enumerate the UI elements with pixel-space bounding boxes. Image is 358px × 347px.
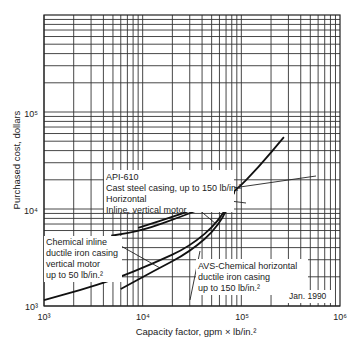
label-avs-1: AVS-Chemical horizontal <box>198 261 297 271</box>
x-tick-1e3: 10³ <box>37 312 50 322</box>
label-avs-2: ductile iron casing <box>198 272 270 282</box>
label-inline-vertical: Inline, vertical motor <box>106 205 187 215</box>
label-avs-3: up to 150 lb/in.² <box>198 283 260 293</box>
label-chem-inline-3: vertical motor <box>46 259 100 269</box>
y-tick-1e3: 10³ <box>25 302 38 312</box>
x-tick-1e5: 10⁵ <box>235 312 249 322</box>
y-tick-1e4: 10⁴ <box>24 206 38 216</box>
label-date: Jan. 1990 <box>289 291 327 301</box>
label-horizontal: Horizontal <box>106 194 147 204</box>
y-axis-label: Purchased cost, dollars <box>11 110 22 209</box>
x-tick-1e6: 10⁶ <box>333 312 347 322</box>
label-cast-steel: Cast steel casing, up to 150 lb/in.² <box>106 183 242 193</box>
label-chem-inline-2: ductile iron casing <box>46 248 118 258</box>
y-tick-1e5: 10⁵ <box>24 109 38 119</box>
label-chem-inline-4: up to 50 lb/in.² <box>46 270 103 280</box>
x-tick-1e4: 10⁴ <box>136 312 150 322</box>
cost-chart: 10⁵ 10⁴ 10³ 10³ 10⁴ 10⁵ 10⁶ Capacity fac… <box>0 0 358 347</box>
x-axis-label: Capacity factor, gpm × lb/in.² <box>136 326 257 337</box>
label-chem-inline-1: Chemical inline <box>46 237 107 247</box>
label-api610: API-610 <box>106 172 139 182</box>
